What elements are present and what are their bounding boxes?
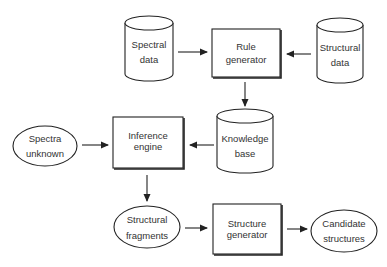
structural-data-label-line2: data — [314, 55, 366, 70]
inference-engine-label-line1: Inference — [113, 130, 183, 141]
knowledge-base-label-line2: base — [215, 146, 275, 161]
spectra-unknown-label-line2: unknown — [13, 146, 77, 161]
structural-fragments-label-line2: fragments — [114, 228, 180, 244]
spectral-data-label-line1: Spectral — [125, 37, 173, 52]
structure-generator-label: Structure generator — [213, 218, 281, 240]
rule-generator-label-line2: generator — [212, 53, 280, 66]
candidate-structures-label: Candidate structures — [311, 216, 377, 246]
spectral-data-label-line2: data — [125, 52, 173, 67]
rule-generator-label-line1: Rule — [212, 40, 280, 53]
structure-generator-label-line1: Structure — [213, 218, 281, 229]
knowledge-base-label: Knowledge base — [215, 131, 275, 161]
inference-engine-label-line2: engine — [113, 141, 183, 152]
knowledge-base-label-line1: Knowledge — [215, 131, 275, 146]
structural-fragments-label-line1: Structural — [114, 212, 180, 228]
spectral-data-label: Spectral data — [125, 37, 173, 67]
rule-generator-label: Rule generator — [212, 40, 280, 66]
candidate-structures-label-line1: Candidate — [311, 216, 377, 231]
structural-fragments-label: Structural fragments — [114, 212, 180, 244]
structure-generator-label-line2: generator — [213, 229, 281, 240]
structural-data-label: Structural data — [314, 40, 366, 70]
inference-engine-label: Inference engine — [113, 130, 183, 152]
structural-data-label-line1: Structural — [314, 40, 366, 55]
candidate-structures-label-line2: structures — [311, 231, 377, 246]
spectra-unknown-label: Spectra unknown — [13, 131, 77, 161]
spectra-unknown-label-line1: Spectra — [13, 131, 77, 146]
